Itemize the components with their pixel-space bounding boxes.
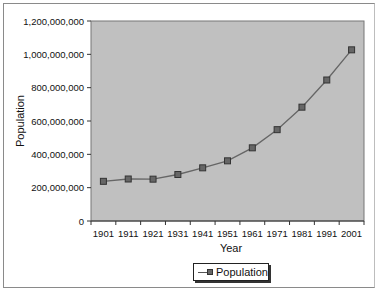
line-chart: 0200,000,000400,000,000600,000,000800,00… [0,0,378,291]
x-tick-label: 1961 [242,228,263,239]
y-tick-label: 0 [79,216,84,227]
x-tick-label: 1911 [118,228,138,239]
x-tick-label: 1931 [167,228,188,239]
square-marker-icon [125,176,131,182]
square-marker-icon [207,269,213,275]
y-tick-label: 200,000,000 [31,182,84,193]
x-axis: 1901191119211931194119511961197119811991… [91,221,364,239]
square-marker-icon [249,145,255,151]
y-tick-label: 400,000,000 [31,149,84,160]
square-marker-icon [299,104,305,110]
square-marker-icon [200,165,206,171]
y-axis-title: Population [14,95,26,147]
x-tick-label: 1951 [217,228,238,239]
square-marker-icon [349,47,355,53]
plot-area [91,21,364,221]
square-marker-icon [274,127,280,133]
x-tick-label: 1941 [192,228,213,239]
square-marker-icon [100,178,106,184]
x-tick-label: 1921 [142,228,163,239]
legend-line-icon [198,272,213,273]
square-marker-icon [324,77,330,83]
x-tick-label: 1981 [291,228,312,239]
x-tick-label: 2001 [341,228,362,239]
y-tick-label: 600,000,000 [31,116,84,127]
y-tick-label: 1,200,000,000 [23,16,84,27]
legend: Population [193,263,269,281]
y-axis: 0200,000,000400,000,000600,000,000800,00… [23,16,91,227]
square-marker-icon [150,176,156,182]
y-tick-label: 1,000,000,000 [23,49,84,60]
square-marker-icon [225,158,231,164]
x-tick-label: 1971 [267,228,288,239]
legend-label: Population [216,266,268,278]
x-tick-label: 1901 [93,228,114,239]
square-marker-icon [175,172,181,178]
y-tick-label: 800,000,000 [31,82,84,93]
x-axis-title: Year [220,242,243,254]
x-tick-label: 1991 [316,228,337,239]
